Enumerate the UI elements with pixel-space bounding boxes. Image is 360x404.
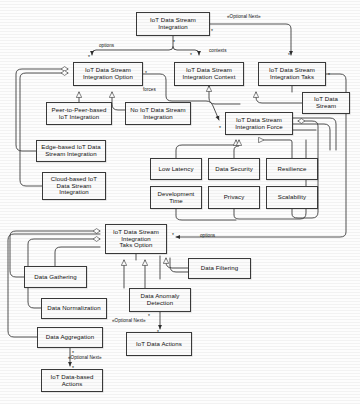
multiplicity-marker: * xyxy=(72,350,74,356)
node-iot-data-actions[interactable]: IoT Data Actions xyxy=(126,332,192,356)
node-label: IoT Data Stream Integration Force xyxy=(235,117,282,131)
diagram-canvas: IoT Data Stream Integration IoT Data Str… xyxy=(0,0,360,404)
node-iot-data-stream-integration[interactable]: IoT Data Stream Integration xyxy=(136,12,210,36)
node-label: IoT Data Stream Integration Taks Option xyxy=(113,229,159,249)
edge-label-options-top: options xyxy=(99,43,114,48)
node-label: Data Normalization xyxy=(47,305,100,312)
node-label: Data Gathering xyxy=(34,274,76,281)
multiplicity-marker: * xyxy=(211,28,213,34)
edge-label-optional-next-anomaly: «Optional Next» xyxy=(112,318,146,323)
node-scalability[interactable]: Scalability xyxy=(266,186,318,209)
multiplicity-marker: * xyxy=(219,125,221,131)
node-label: Edge-based IoT Data Stream Integration xyxy=(41,144,100,158)
node-integration-force[interactable]: IoT Data Stream Integration Force xyxy=(225,112,293,135)
edge-label-options-taks: options xyxy=(200,233,215,238)
multiplicity-marker: * xyxy=(157,329,159,335)
node-label: IoT Data Stream Integration Context xyxy=(182,67,235,81)
node-no-integration[interactable]: No IoT Data Stream Integration xyxy=(125,102,191,125)
node-label: Data Anomaly Detection xyxy=(141,293,180,307)
multiplicity-marker: * xyxy=(72,365,74,371)
node-label: Scalability xyxy=(278,194,306,201)
multiplicity-marker: * xyxy=(88,54,90,60)
node-label: IoT Data Stream Integration Option xyxy=(83,67,133,81)
node-development-time[interactable]: Development Time xyxy=(150,186,202,209)
edge-label-optional-next-top: «Optional Next» xyxy=(227,14,261,19)
node-edge-based-integration[interactable]: Edge-based IoT Data Stream Integration xyxy=(36,140,106,162)
node-cloud-based-integration[interactable]: Cloud-based IoT Data Stream Integration xyxy=(42,172,106,200)
node-data-gathering[interactable]: Data Gathering xyxy=(24,266,87,288)
node-data-aggregation[interactable]: Data Aggregation xyxy=(37,327,103,348)
node-label: IoT Data Actions xyxy=(136,341,182,348)
edge-label-forces: forces xyxy=(143,87,156,92)
node-label: No IoT Data Stream Integration xyxy=(130,107,186,121)
node-label: Privacy xyxy=(224,194,245,201)
node-integration-option[interactable]: IoT Data Stream Integration Option xyxy=(73,62,143,86)
node-label: Peer-to-Peer-based IoT Integration xyxy=(52,107,107,121)
node-label: Data Aggregation xyxy=(46,334,94,341)
node-label: Development Time xyxy=(158,191,195,205)
node-resilience[interactable]: Resilience xyxy=(266,158,318,180)
node-label: Low Latency xyxy=(158,166,193,173)
edge-label-contexts: contexts xyxy=(209,48,227,53)
node-privacy[interactable]: Privacy xyxy=(208,186,260,209)
node-integration-taks[interactable]: IoT Data Stream Integration Taks xyxy=(258,62,326,86)
node-label: Data Filtering xyxy=(201,265,238,272)
node-label: Data Security xyxy=(215,166,253,173)
multiplicity-marker: * xyxy=(148,313,150,319)
node-taks-option[interactable]: IoT Data Stream Integration Taks Option xyxy=(105,224,167,254)
node-low-latency[interactable]: Low Latency xyxy=(150,158,202,180)
node-label: IoT Data Stream xyxy=(314,96,338,110)
node-label: Cloud-based IoT Data Stream Integration xyxy=(51,176,97,196)
node-iot-data-stream[interactable]: IoT Data Stream xyxy=(302,92,350,114)
node-label: IoT Data-based Actions xyxy=(50,374,93,388)
node-data-anomaly-detection[interactable]: Data Anomaly Detection xyxy=(129,288,191,312)
node-integration-context[interactable]: IoT Data Stream Integration Context xyxy=(174,62,244,86)
node-peer-to-peer-integration[interactable]: Peer-to-Peer-based IoT Integration xyxy=(46,102,112,125)
multiplicity-marker: * xyxy=(288,52,290,58)
node-iot-data-based-actions[interactable]: IoT Data-based Actions xyxy=(41,369,103,392)
multiplicity-marker: * xyxy=(145,70,147,76)
multiplicity-marker: * xyxy=(173,39,175,45)
node-data-normalization[interactable]: Data Normalization xyxy=(41,298,107,319)
node-data-filtering[interactable]: Data Filtering xyxy=(188,258,251,279)
multiplicity-marker: * xyxy=(172,232,174,238)
node-label: IoT Data Stream Integration xyxy=(150,17,196,31)
node-data-security[interactable]: Data Security xyxy=(208,158,260,180)
node-label: Resilience xyxy=(278,166,307,173)
node-label: IoT Data Stream Integration Taks xyxy=(269,67,315,81)
multiplicity-marker: * xyxy=(190,52,192,58)
multiplicity-marker: * xyxy=(328,72,330,78)
